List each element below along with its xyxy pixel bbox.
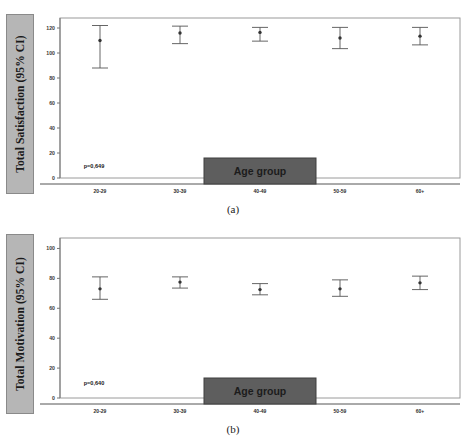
x-axis-category-label: 50-59	[334, 408, 347, 414]
y-axis-tick-label: 80	[49, 75, 55, 81]
mean-marker	[178, 280, 181, 283]
x-axis-category-label: 30-39	[174, 408, 187, 414]
mean-marker	[178, 31, 181, 34]
mean-marker	[98, 39, 101, 42]
plot-area-b: 020406080100Age group20-2930-3940-4950-5…	[38, 230, 462, 420]
y-axis-tick-label: 60	[49, 100, 55, 106]
x-axis-category-label: 60+	[416, 408, 425, 414]
y-axis-tick-label: 20	[49, 365, 55, 371]
errorbar-chart-a: 020406080100120Age group20-2930-3940-495…	[38, 10, 462, 200]
y-axis-title-a: Total Satisfaction (95% CI)	[14, 35, 26, 172]
y-axis-tick-label: 20	[49, 150, 55, 156]
panel-caption-a: (a)	[0, 203, 466, 215]
p-value-annotation: p=0,649	[84, 163, 105, 169]
x-axis-category-label: 50-59	[334, 188, 347, 194]
errorbar-chart-b: 020406080100Age group20-2930-3940-4950-5…	[38, 230, 462, 420]
y-axis-title-b: Total Motivation (95% CI)	[14, 257, 26, 391]
panel-caption-b: (b)	[0, 423, 466, 435]
y-axis-tick-label: 100	[46, 245, 55, 251]
y-axis-tick-label: 40	[49, 125, 55, 131]
mean-marker	[258, 288, 261, 291]
x-axis-category-label: 60+	[416, 188, 425, 194]
mean-marker	[418, 281, 421, 284]
y-axis-title-box-b: Total Motivation (95% CI)	[6, 234, 34, 414]
y-axis-tick-label: 0	[52, 395, 55, 401]
mean-marker	[338, 36, 341, 39]
plot-frame	[60, 18, 460, 178]
x-axis-category-label: 40-49	[254, 188, 267, 194]
plot-area-a: 020406080100120Age group20-2930-3940-495…	[38, 10, 462, 200]
x-axis-category-label: 20-29	[94, 188, 107, 194]
y-axis-tick-label: 0	[52, 175, 55, 181]
p-value-annotation: p=0,640	[84, 380, 105, 386]
y-axis-tick-label: 40	[49, 335, 55, 341]
mean-marker	[98, 287, 101, 290]
y-axis-title-box-a: Total Satisfaction (95% CI)	[6, 14, 34, 194]
y-axis-tick-label: 100	[46, 50, 55, 56]
x-axis-category-label: 30-39	[174, 188, 187, 194]
mean-marker	[258, 31, 261, 34]
y-axis-tick-label: 80	[49, 275, 55, 281]
y-axis-tick-label: 60	[49, 305, 55, 311]
mean-marker	[338, 287, 341, 290]
panel-a-satisfaction: Total Satisfaction (95% CI) 020406080100…	[0, 0, 466, 220]
plot-frame	[60, 238, 460, 398]
x-axis-title: Age group	[234, 385, 287, 397]
mean-marker	[418, 34, 421, 37]
x-axis-category-label: 40-49	[254, 408, 267, 414]
y-axis-tick-label: 120	[46, 25, 55, 31]
x-axis-category-label: 20-29	[94, 408, 107, 414]
panel-b-motivation: Total Motivation (95% CI) 020406080100Ag…	[0, 220, 466, 440]
x-axis-title: Age group	[234, 165, 287, 177]
